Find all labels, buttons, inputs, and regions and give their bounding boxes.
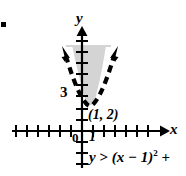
graph-figure: y x 3 0 1 (1, 2) y > (x − 1)2 +: [0, 0, 186, 176]
y-axis-arrowhead: [77, 26, 88, 36]
vertex-point-label: (1, 2): [88, 108, 118, 122]
y-tick-label-3: 3: [60, 85, 68, 100]
inequality-rhs-exponent: 2: [153, 148, 158, 158]
inequality-rhs-base: (x − 1): [112, 149, 154, 165]
shaded-region-top-edge: [66, 45, 111, 47]
inequality-relation: >: [99, 149, 108, 165]
inequality-lhs: y: [89, 149, 96, 165]
x-axis-arrowhead: [160, 126, 170, 137]
x-axis-label: x: [170, 122, 178, 137]
inequality-label: y > (x − 1)2 +: [89, 150, 170, 165]
y-axis-label: y: [76, 11, 83, 26]
inequality-trailing: +: [162, 149, 171, 165]
origin-label: 0: [72, 131, 79, 144]
x-tick-label-1: 1: [89, 130, 96, 144]
